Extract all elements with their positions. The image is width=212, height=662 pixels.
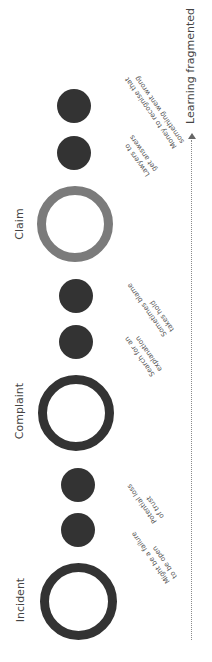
axis-dotted-line — [191, 140, 192, 640]
stage-ring-complaint — [38, 375, 114, 451]
stage-label-complaint: Complaint — [13, 383, 26, 439]
point-dot-explanation — [59, 325, 93, 359]
axis-label-learning-fragmented: Learning fragmented — [184, 8, 197, 124]
note-lawyers: Lawyers to get answers — [121, 133, 159, 178]
stage-label-incident: Incident — [14, 578, 27, 622]
note-trust: Potential loss of trust — [125, 477, 166, 525]
point-dot-failure — [61, 513, 95, 547]
note-explanation: Search for an explanation — [123, 330, 164, 378]
note-line: something went wrong — [130, 71, 186, 146]
escalation-diagram: Learning fragmented Claim Complaint Inci… — [0, 0, 212, 662]
note-blame: Sometimes blame takes hold — [126, 276, 176, 338]
stage-ring-incident — [40, 563, 117, 640]
point-dot-money — [57, 89, 91, 123]
note-failure: Might be a failure to be open — [130, 525, 179, 585]
point-dot-trust — [61, 468, 95, 502]
stage-label-claim: Claim — [13, 208, 26, 239]
arrow-up-icon — [188, 133, 196, 139]
stage-ring-claim — [37, 186, 113, 262]
point-dot-blame — [59, 279, 93, 313]
point-dot-lawyers — [57, 136, 91, 170]
